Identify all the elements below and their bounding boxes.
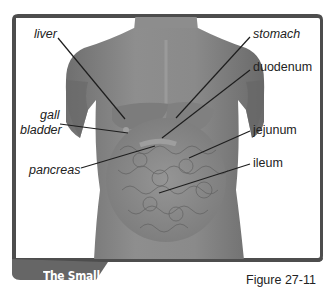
torso-illustration — [0, 0, 334, 296]
anatomy-figure: liver gall bladder pancreas stomach duod… — [0, 0, 334, 296]
figure-caption: Figure 27-11 — [246, 273, 316, 287]
label-ileum: ileum — [253, 157, 283, 170]
label-liver: liver — [34, 28, 57, 41]
label-stomach: stomach — [253, 28, 300, 41]
label-bladder: bladder — [20, 124, 62, 137]
label-gall: gall — [40, 109, 59, 122]
label-jejunum: jejunum — [253, 124, 297, 137]
label-duodenum: duodenum — [253, 61, 312, 74]
label-pancreas: pancreas — [29, 164, 80, 177]
figure-title: The Small Intestines — [43, 268, 161, 283]
